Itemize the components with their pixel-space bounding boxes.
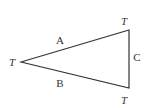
vertex-label-bottom-right: T bbox=[121, 94, 128, 106]
triangle-shape bbox=[21, 30, 129, 88]
edge-label-c: C bbox=[133, 51, 140, 63]
edge-label-a: A bbox=[56, 34, 64, 46]
vertex-label-left: T bbox=[9, 56, 16, 68]
vertex-label-top-right: T bbox=[121, 15, 128, 27]
edge-label-b: B bbox=[56, 77, 63, 89]
triangle-diagram: T T T A B C bbox=[0, 0, 152, 108]
